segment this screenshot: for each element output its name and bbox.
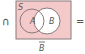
venn-diagram: ∩ S A B B = (0, 0, 85, 54)
caption-label: B (39, 44, 45, 53)
intersection-operator: ∩ (2, 15, 10, 28)
universe-label: S (18, 3, 23, 12)
set-a-label: A (29, 17, 35, 26)
set-b-label: B (49, 17, 55, 26)
equals-sign: = (76, 16, 84, 27)
